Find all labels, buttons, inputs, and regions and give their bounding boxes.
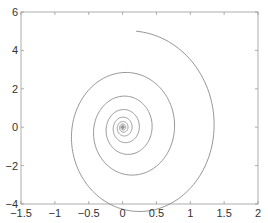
x-tick-label: 0 [120, 207, 126, 219]
x-tick-label: 1.5 [216, 207, 231, 219]
y-tick-label: −4 [5, 198, 18, 210]
spiral-line [71, 31, 214, 211]
y-tick-label: 0 [12, 121, 18, 133]
x-tick-label: −1 [49, 207, 62, 219]
x-tick-labels: −1.5−1−0.500.511.52 [10, 207, 261, 219]
spiral-chart: −1.5−1−0.500.511.52 −4−20246 [0, 0, 268, 223]
x-tick-label: −0.5 [78, 207, 100, 219]
y-tick-label: 2 [12, 83, 18, 95]
plot-frame [21, 12, 258, 204]
x-tick-label: 1 [187, 207, 193, 219]
x-tick-label: 2 [255, 207, 261, 219]
y-tick-label: −2 [5, 160, 18, 172]
axes [21, 12, 258, 204]
y-tick-labels: −4−20246 [5, 6, 18, 210]
y-tick-label: 4 [12, 44, 18, 56]
y-tick-label: 6 [12, 6, 18, 18]
x-tick-label: 0.5 [149, 207, 164, 219]
